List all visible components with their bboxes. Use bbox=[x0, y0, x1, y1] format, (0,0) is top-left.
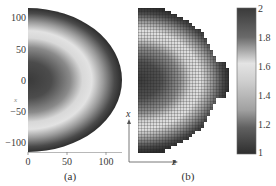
ytick-neg100: −100 bbox=[0, 138, 26, 148]
panel-a-ylabel: x bbox=[14, 96, 17, 104]
caption-b: (b) bbox=[173, 170, 203, 182]
xtick-50: 50 bbox=[55, 157, 79, 167]
colorbar-tick-1: 1 bbox=[258, 148, 263, 158]
colorbar-tick-1-6: 1.6 bbox=[258, 62, 271, 72]
xtick-0: 0 bbox=[16, 157, 40, 167]
ytick-neg50: −50 bbox=[0, 107, 26, 117]
panel-a-axes bbox=[28, 152, 122, 155]
xtick-100: 100 bbox=[94, 157, 118, 167]
panel-b-z-axis-label: z bbox=[172, 156, 176, 167]
colorbar-tick-1-4: 1.4 bbox=[258, 91, 271, 101]
colorbar bbox=[237, 8, 256, 154]
caption-a: (a) bbox=[55, 170, 85, 182]
ytick-50: 50 bbox=[0, 45, 26, 55]
colorbar-tick-1-2: 1.2 bbox=[258, 120, 271, 130]
panel-b-heatmap bbox=[138, 8, 230, 154]
colorbar-tick-2: 2 bbox=[258, 4, 263, 14]
ytick-0: 0 bbox=[0, 76, 26, 86]
panel-b-x-axis-label: x bbox=[126, 108, 130, 119]
ytick-100: 100 bbox=[0, 13, 26, 23]
panel-a-heatmap bbox=[28, 8, 123, 152]
figure-canvas bbox=[0, 0, 276, 186]
colorbar-tick-1-8: 1.8 bbox=[258, 33, 271, 43]
